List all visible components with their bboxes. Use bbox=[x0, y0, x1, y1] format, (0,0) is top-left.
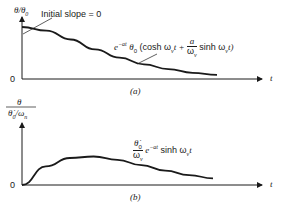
panel-a-caption: (a) bbox=[130, 87, 141, 96]
panel-b-y-label-denominator: θ̇0/ωn bbox=[8, 109, 27, 120]
panel-a-slope-leader bbox=[23, 18, 52, 34]
diagram-canvas bbox=[0, 0, 284, 212]
panel-a-y-label: θ/θ0 bbox=[14, 6, 28, 17]
panel-b-x-label: t bbox=[270, 180, 273, 189]
panel-a-origin: 0 bbox=[10, 75, 15, 84]
panel-b-curve-label: θ̇0ωv e−at sinh ωvt bbox=[133, 139, 192, 162]
panel-a-curve-label: e−at θ0 (cosh ωvt + aωv sinh ωvt) bbox=[114, 37, 234, 59]
panel-b-y-label-numerator: θ bbox=[17, 98, 21, 107]
panel-a-x-label: t bbox=[270, 74, 273, 83]
panel-b-origin: 0 bbox=[10, 181, 15, 190]
panel-b-caption: (b) bbox=[130, 193, 141, 202]
initial-slope-annotation: Initial slope = 0 bbox=[41, 10, 101, 19]
